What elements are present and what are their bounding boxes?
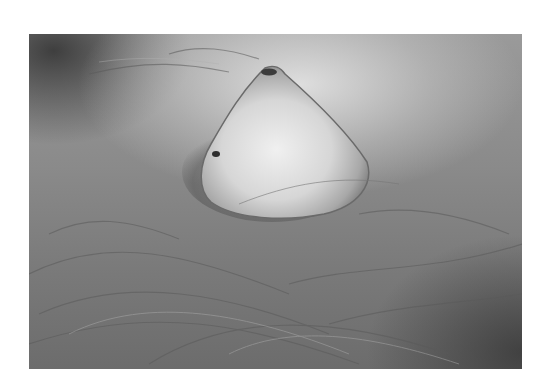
clinical-photo <box>29 34 522 369</box>
lesion-tip <box>261 69 277 76</box>
dark-spot <box>212 151 220 157</box>
lesion <box>201 66 368 218</box>
lesion-illustration <box>29 34 522 369</box>
